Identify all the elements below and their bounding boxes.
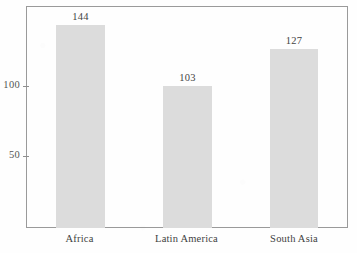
y-tick-mark-100: [23, 86, 29, 87]
bar-chart-figure: 100 50 144 103 127 Africa Latin America …: [0, 0, 357, 253]
bar-value-label-latin-america: 103: [163, 72, 212, 83]
bar-africa: [56, 25, 105, 228]
y-tick-label-100: 100: [0, 79, 20, 90]
x-axis-label-latin-america: Latin America: [133, 233, 240, 244]
bar-latin-america: [163, 86, 212, 228]
x-axis-label-south-asia: South Asia: [240, 233, 348, 244]
y-tick-mark-50: [23, 156, 29, 157]
bar-south-asia: [270, 49, 318, 228]
x-axis-label-africa: Africa: [26, 233, 133, 244]
bar-value-label-africa: 144: [56, 11, 105, 22]
plot-area: 100 50 144 103 127: [26, 6, 348, 228]
y-tick-label-50: 50: [0, 149, 20, 160]
bar-value-label-south-asia: 127: [270, 35, 318, 46]
